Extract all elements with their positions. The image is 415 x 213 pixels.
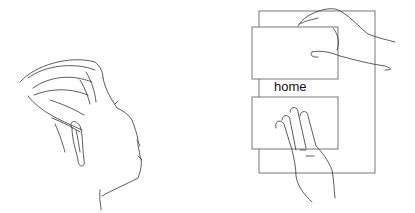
top-panel bbox=[252, 27, 338, 79]
page-drawing bbox=[252, 11, 375, 173]
home-label: home bbox=[274, 79, 307, 94]
head-profile-drawing bbox=[20, 60, 142, 210]
bottom-panel bbox=[252, 97, 338, 149]
illustration bbox=[0, 0, 415, 213]
